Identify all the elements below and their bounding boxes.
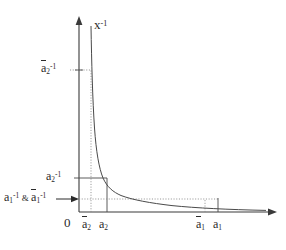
x-tick-label-abar1: a1	[196, 218, 205, 231]
a1inv-pointer-arrowhead	[71, 196, 79, 202]
x-tick-label-a2: a2	[99, 218, 108, 231]
curve-label: x-1	[94, 18, 107, 31]
x-axis-arrowhead	[268, 209, 277, 216]
curve-group	[91, 26, 266, 210]
y-tick-label-a2-inverse: a2-1	[46, 170, 61, 183]
reciprocal-curve	[91, 26, 266, 210]
x-tick-label-a1: a1	[213, 218, 222, 231]
hyperbola-figure	[0, 0, 286, 250]
x-tick-label-abar2: a2	[82, 218, 91, 231]
origin-label: 0	[64, 216, 71, 229]
axes-group	[76, 16, 277, 215]
y-tick-label-a1-inverse-pair: a1-1 & a1-1	[4, 191, 46, 204]
y-tick-label-abar2-inverse: a2-1	[41, 62, 56, 75]
y-axis-arrowhead	[76, 16, 83, 25]
construction-lines-group	[56, 70, 218, 212]
